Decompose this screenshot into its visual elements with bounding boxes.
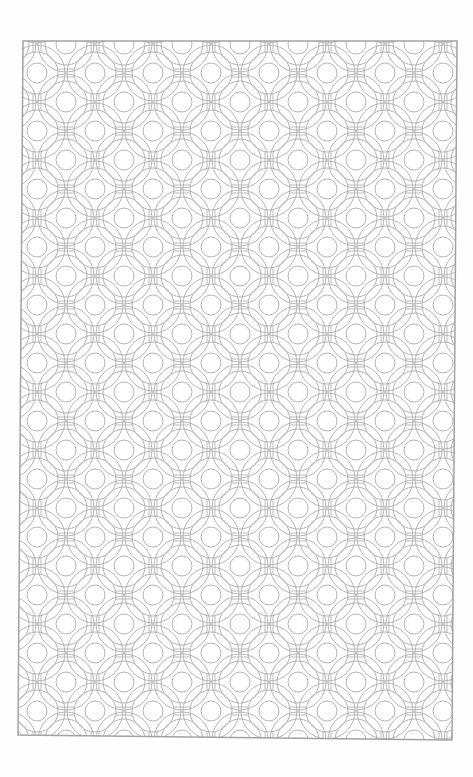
coloring-page <box>0 0 473 777</box>
circle-pattern-artwork <box>0 0 473 777</box>
pattern-fill <box>0 0 473 777</box>
